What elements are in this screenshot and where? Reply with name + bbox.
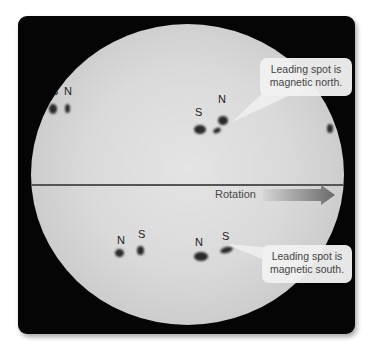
pole-label-n: N — [218, 94, 226, 105]
sunspot — [194, 125, 206, 134]
callout-south: Leading spot is magnetic south. — [262, 245, 352, 283]
sunspot — [194, 252, 208, 261]
sunspot — [212, 127, 221, 135]
pole-label-n: N — [195, 237, 203, 248]
image-panel: S N S N N S N S Rotation — [18, 16, 355, 334]
pole-label-s: S — [195, 107, 202, 118]
callout-south-line2: magnetic south. — [266, 263, 348, 276]
sunspot — [49, 104, 57, 114]
sunspot — [137, 246, 144, 255]
sunspot — [115, 249, 124, 257]
callout-north-line1: Leading spot is — [264, 63, 348, 76]
callout-south-line1: Leading spot is — [266, 250, 348, 263]
pole-label-s: S — [138, 229, 145, 240]
sunspot — [65, 104, 70, 113]
sunspot — [327, 124, 333, 133]
right-arrow-icon — [263, 185, 335, 205]
callout-north: Leading spot is magnetic north. — [260, 58, 352, 96]
sunspot — [218, 116, 228, 125]
pole-label-s: S — [51, 86, 58, 97]
rotation-label: Rotation — [215, 189, 256, 200]
sunspot — [41, 242, 45, 246]
pole-label-n: N — [117, 235, 125, 246]
callout-north-line2: magnetic north. — [264, 76, 348, 89]
pole-label-n: N — [64, 86, 72, 97]
